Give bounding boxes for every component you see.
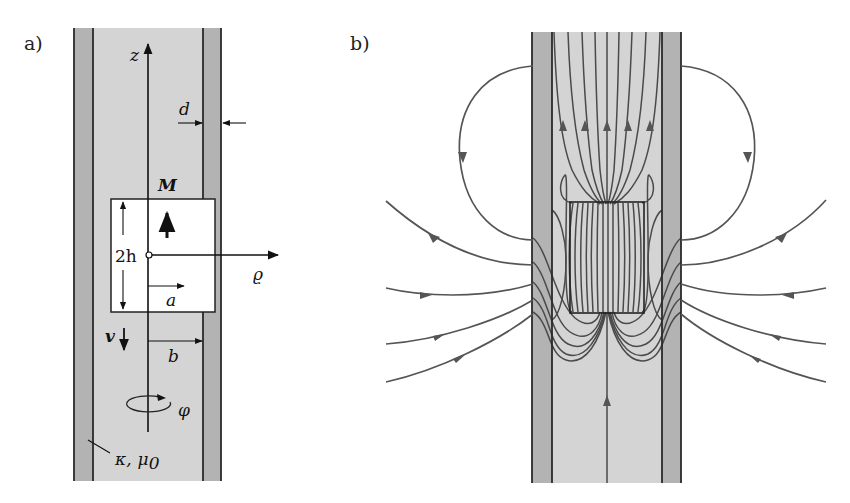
magnet-height-label: 2h: [115, 246, 137, 266]
figure: a) z d M 2h ϱ a v: [0, 0, 850, 503]
origin-marker: [146, 252, 152, 258]
tube-wall-left: [74, 28, 93, 481]
tube-radius-label: b: [168, 346, 179, 366]
panel-a: a) z d M 2h ϱ a v: [24, 28, 278, 481]
panel-b-label: b): [350, 32, 370, 54]
magnetization-label: M: [157, 175, 178, 195]
azimuth-label: φ: [178, 400, 190, 420]
velocity-label: v: [105, 326, 116, 346]
radial-axis-label: ϱ: [253, 264, 263, 284]
panel-b: b): [350, 32, 826, 483]
wall-thickness-label: d: [179, 99, 190, 119]
inner-radius-label: a: [166, 290, 176, 310]
z-axis-label: z: [129, 45, 140, 65]
panel-a-label: a): [24, 32, 43, 54]
